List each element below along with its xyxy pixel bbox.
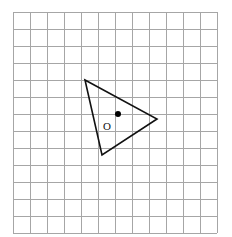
figure-canvas: O [0, 0, 232, 237]
figure-container: O Grid with triangle, center of rotation… [0, 0, 232, 237]
image-point-dot [115, 111, 121, 117]
center-of-rotation-o-label: O [103, 120, 111, 132]
